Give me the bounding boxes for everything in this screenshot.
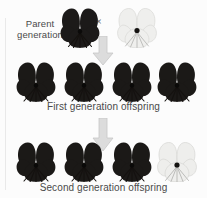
f2-flower-1 xyxy=(13,140,59,182)
f2-flower-4 xyxy=(154,140,200,182)
f2-flower-2 xyxy=(61,140,107,182)
parent-flower-white xyxy=(114,6,160,48)
inheritance-diagram: Parent generation × xyxy=(0,0,207,198)
f1-flower-3 xyxy=(109,60,155,102)
f2-flower-3 xyxy=(109,140,155,182)
first-generation-label: First generation offspring xyxy=(0,101,207,112)
f1-flower-4 xyxy=(154,60,200,102)
f1-flower-2 xyxy=(61,60,107,102)
cross-symbol: × xyxy=(96,16,102,27)
f1-flower-1 xyxy=(13,60,59,102)
second-generation-label: Second generation offspring xyxy=(0,182,207,193)
